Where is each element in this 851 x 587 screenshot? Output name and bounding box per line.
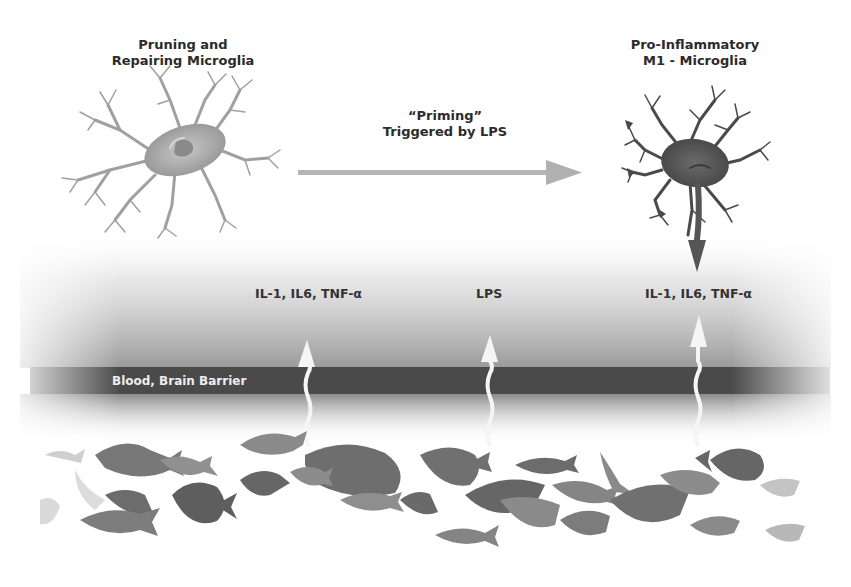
gut-microbiome-fish-school [40,431,805,547]
resting-microglia-title-line1: Pruning and [98,37,268,53]
blood-brain-barrier-label: Blood, Brain Barrier [112,374,246,388]
diagram-canvas: Pruning and Repairing Microglia Pro-Infl… [0,0,851,587]
resting-microglia-cell [62,66,280,238]
cytokine-label-right: IL-1, IL6, TNF-α [645,286,752,301]
resting-microglia-title: Pruning and Repairing Microglia [98,37,268,69]
priming-label-line1: “Priming” [355,108,535,124]
gut-gradient [20,394,831,444]
lps-label: LPS [476,286,502,301]
cytokine-label-left: IL-1, IL6, TNF-α [255,286,362,301]
priming-label-line2: Triggered by LPS [355,124,535,140]
m1-microglia-title-line1: Pro-Inflammatory [615,37,775,53]
resting-microglia-title-line2: Repairing Microglia [98,53,268,69]
m1-microglia-title: Pro-Inflammatory M1 - Microglia [615,37,775,69]
priming-arrow [298,160,582,185]
m1-microglia-title-line2: M1 - Microglia [615,53,775,69]
priming-label: “Priming” Triggered by LPS [355,108,535,140]
